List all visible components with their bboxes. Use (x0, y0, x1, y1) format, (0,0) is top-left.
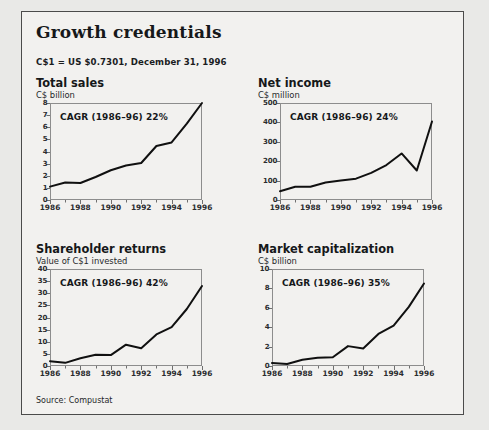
y-axis-label: 1 (43, 184, 48, 192)
y-axis-label: 6 (265, 304, 270, 312)
x-axis-label: 1992 (361, 203, 382, 212)
chart-title: Total sales (36, 77, 202, 89)
y-axis-label: 6 (43, 123, 48, 131)
cagr-annotation: CAGR (1986–96) 22% (60, 112, 168, 122)
y-axis-label: 4 (43, 148, 48, 156)
plot-area: 0510152025303540198619881990199219941996… (50, 269, 202, 366)
chart-title: Shareholder returns (36, 243, 202, 255)
y-axis-label: 35 (38, 277, 48, 285)
x-axis-label: 1994 (161, 369, 182, 378)
y-axis-label: 30 (38, 289, 48, 297)
x-axis-label: 1992 (131, 369, 152, 378)
chart-subtitle: C$ billion (258, 256, 424, 266)
y-axis-label: 100 (263, 177, 278, 185)
y-axis-label: 10 (260, 265, 270, 273)
x-axis-label: 1988 (70, 369, 91, 378)
y-axis-label: 300 (263, 138, 278, 146)
data-series-line (280, 121, 432, 191)
y-axis-label: 8 (265, 284, 270, 292)
x-axis-label: 1990 (323, 369, 344, 378)
y-axis-label: 40 (38, 265, 48, 273)
y-axis-label: 4 (265, 323, 270, 331)
y-axis-label: 25 (38, 301, 48, 309)
y-axis-label: 2 (265, 343, 270, 351)
y-axis-label: 10 (38, 338, 48, 346)
x-axis-label: 1994 (391, 203, 412, 212)
x-axis-label: 1986 (40, 203, 61, 212)
y-axis-label: 5 (43, 135, 48, 143)
y-axis-label: 15 (38, 326, 48, 334)
chart-shareholder-returns: Shareholder returnsValue of C$1 invested… (36, 243, 202, 366)
page-title: Growth credentials (36, 22, 222, 42)
data-series-line (272, 284, 424, 365)
plot-area: 0246810198619881990199219941996CAGR (198… (272, 269, 424, 366)
y-axis-label: 2 (43, 172, 48, 180)
x-axis-label: 1996 (422, 203, 443, 212)
chart-subtitle: Value of C$1 invested (36, 256, 202, 266)
y-axis-label: 200 (263, 157, 278, 165)
x-axis-label: 1996 (414, 369, 435, 378)
y-axis-label: 20 (38, 314, 48, 322)
data-series-line (50, 286, 202, 363)
x-axis-label: 1986 (262, 369, 283, 378)
source-note: Source: Compustat (36, 396, 112, 405)
y-axis-label: 500 (263, 99, 278, 107)
x-axis-label: 1996 (192, 369, 213, 378)
y-axis-label: 7 (43, 111, 48, 119)
x-axis-label: 1986 (270, 203, 291, 212)
cagr-annotation: CAGR (1986–96) 24% (290, 112, 398, 122)
y-axis-label: 400 (263, 118, 278, 126)
cagr-annotation: CAGR (1986–96) 35% (282, 278, 390, 288)
chart-total-sales: Total salesC$ billion0123456781986198819… (36, 77, 202, 200)
x-axis-label: 1988 (300, 203, 321, 212)
chart-market-capitalization: Market capitalizationC$ billion024681019… (258, 243, 424, 366)
chart-title: Net income (258, 77, 432, 89)
chart-subtitle: C$ billion (36, 90, 202, 100)
x-axis-label: 1988 (292, 369, 313, 378)
exchange-rate-note: C$1 = US $0.7301, December 31, 1996 (36, 57, 227, 67)
chart-title: Market capitalization (258, 243, 424, 255)
x-axis-label: 1994 (383, 369, 404, 378)
plot-area: 012345678198619881990199219941996CAGR (1… (50, 103, 202, 200)
y-axis-label: 3 (43, 160, 48, 168)
y-axis-label: 5 (43, 350, 48, 358)
cagr-annotation: CAGR (1986–96) 42% (60, 278, 168, 288)
x-axis-label: 1990 (101, 369, 122, 378)
y-axis-label: 8 (43, 99, 48, 107)
chart-subtitle: C$ million (258, 90, 432, 100)
x-axis-label: 1990 (101, 203, 122, 212)
x-axis-label: 1994 (161, 203, 182, 212)
x-axis-label: 1986 (40, 369, 61, 378)
x-axis-label: 1988 (70, 203, 91, 212)
x-axis-label: 1996 (192, 203, 213, 212)
plot-area: 0100200300400500198619881990199219941996… (280, 103, 432, 200)
x-axis-label: 1992 (131, 203, 152, 212)
x-axis-label: 1992 (353, 369, 374, 378)
x-axis-label: 1990 (331, 203, 352, 212)
figure-panel: Growth credentials C$1 = US $0.7301, Dec… (21, 11, 464, 415)
chart-net-income: Net incomeC$ million01002003004005001986… (258, 77, 432, 200)
